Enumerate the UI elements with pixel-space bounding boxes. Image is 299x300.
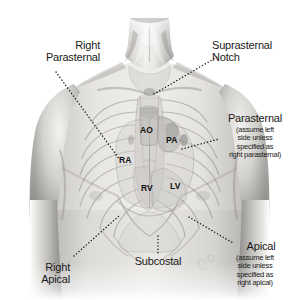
chamber-label-aorta: AO: [140, 125, 153, 135]
label-parasternal: Parasternal: [212, 113, 298, 125]
label-subcostal: Subcostal: [116, 256, 200, 268]
label-apical: Apical: [226, 241, 296, 253]
label-apical-note: (assume left side unless specified as ri…: [212, 254, 298, 288]
label-suprasternal-notch: Suprasternal Notch: [212, 40, 298, 63]
label-parasternal-note: (assume left side unless specified as ri…: [210, 126, 299, 160]
label-right-parasternal: Right Parasternal: [4, 40, 100, 63]
anatomy-figure: Right Parasternal Suprasternal Notch Par…: [0, 0, 299, 300]
chamber-label-right-atrium: RA: [119, 155, 131, 165]
label-right-apical: Right Apical: [4, 262, 70, 285]
chamber-label-pulmonary-artery: PA: [166, 135, 177, 145]
chamber-label-left-ventricle: LV: [170, 181, 180, 191]
chamber-label-right-ventricle: RV: [141, 183, 153, 193]
